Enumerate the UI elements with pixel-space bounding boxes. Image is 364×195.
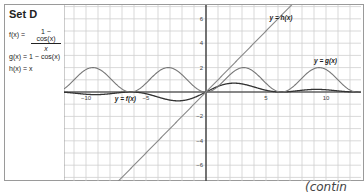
curves <box>64 0 361 195</box>
x-tick-label: −10 <box>81 95 92 101</box>
h-definition: h(x) = x <box>9 65 33 72</box>
y-tick-label: −4 <box>196 138 204 144</box>
label-f: y = f(x) <box>114 95 136 103</box>
f-definition-lhs: f(x) = <box>9 31 25 38</box>
f-definition-fraction: 1 − cos(x) x <box>31 28 61 52</box>
continued-label: (contin <box>305 180 347 194</box>
x-tick-label: −5 <box>143 95 151 101</box>
f-numerator: 1 − cos(x) <box>31 28 61 44</box>
set-title: Set D <box>9 8 37 20</box>
y-tick-label: −6 <box>196 162 204 168</box>
f-lhs: f(x) = <box>9 31 25 38</box>
x-tick-label: 10 <box>323 95 330 101</box>
label-h: y = h(x) <box>269 14 293 22</box>
y-tick-label: −2 <box>196 113 204 119</box>
x-tick-label: 5 <box>264 95 268 101</box>
grid-lines <box>64 5 361 181</box>
g-definition: g(x) = 1 − cos(x) <box>9 53 60 60</box>
f-denominator: x <box>31 44 61 52</box>
function-definitions-panel: Set D f(x) = 1 − cos(x) x g(x) = 1 − cos… <box>5 5 64 180</box>
curve-h <box>64 0 361 195</box>
label-g: y = g(x) <box>313 57 337 65</box>
